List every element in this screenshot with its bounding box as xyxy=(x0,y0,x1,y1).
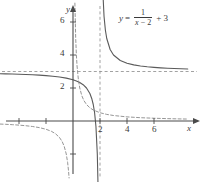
dashed-curve-branch-1 xyxy=(0,124,69,178)
fraction-numerator: 1 xyxy=(139,9,147,17)
y-tick-label-6: 6 xyxy=(60,16,65,25)
solid-curve-branch-0 xyxy=(0,74,98,182)
axes-layer xyxy=(6,5,200,182)
equation-annotation: y = 1 x − 2 + 3 xyxy=(119,9,168,28)
equation-fraction: 1 x − 2 xyxy=(134,9,152,28)
x-tick-label-2: 2 xyxy=(98,125,103,134)
y-tick-label-2: 2 xyxy=(60,82,65,91)
equation-lhs: y xyxy=(119,13,123,23)
plot-canvas xyxy=(0,0,203,182)
equation-plus-term: + 3 xyxy=(156,13,168,23)
y-axis-label: y xyxy=(66,5,70,14)
rational-function-figure: y x 6 4 2 2 4 6 y = 1 x − 2 + 3 xyxy=(0,0,203,182)
x-axis-arrowhead xyxy=(193,118,200,124)
denominator-minus: − xyxy=(139,18,148,27)
x-tick-label-4: 4 xyxy=(125,125,130,134)
asymptotes-layer xyxy=(2,6,197,178)
equation-equals-sign: = xyxy=(125,13,130,23)
y-tick-label-4: 4 xyxy=(60,49,65,58)
denominator-number: 2 xyxy=(147,18,151,27)
x-axis-label: x xyxy=(187,124,191,133)
x-tick-label-6: 6 xyxy=(152,125,157,134)
fraction-denominator: x − 2 xyxy=(134,18,152,27)
